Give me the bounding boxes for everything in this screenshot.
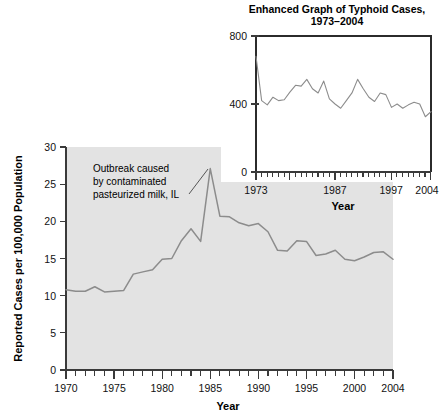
main-y-tick-label-10: 10 [44,290,56,302]
main-x-tick-label-1995: 1995 [295,382,319,394]
main-x-tick-label-2004: 2004 [381,382,405,394]
inset-chart: Enhanced Graph of Typhoid Cases, 1973–20… [221,0,442,212]
inset-x-axis-title: Year [331,200,355,212]
inset-x-tick-label-1997: 1997 [380,184,404,196]
main-x-tick-label-1980: 1980 [151,382,175,394]
annotation-line-3: pasteurized milk, IL [93,189,180,200]
main-y-axis-title: Reported Cases per 100,000 Population [12,155,24,362]
main-y-tick-label-20: 20 [44,215,56,227]
inset-y-tick-label-400: 400 [229,98,247,110]
main-y-tick-label-5: 5 [50,327,56,339]
main-x-tick-label-1975: 1975 [102,382,126,394]
inset-background [221,0,442,182]
inset-y-tick-label-800: 800 [229,30,247,42]
main-x-tick-labels: 1970 1975 1980 1985 1990 1995 2000 2004 [54,382,405,394]
main-y-tick-labels: 0 5 10 15 20 25 30 [44,141,56,376]
main-x-tick-label-1970: 1970 [54,382,78,394]
annotation-line-1: Outbreak caused [93,163,169,174]
chart-canvas: 0 5 10 15 20 25 30 [0,0,442,417]
main-y-tick-label-0: 0 [50,364,56,376]
inset-title-line-1: Enhanced Graph of Typhoid Cases, [249,3,426,15]
main-x-tick-label-1985: 1985 [199,382,223,394]
main-x-ticks [66,370,393,379]
typhoid-cases-figure: 0 5 10 15 20 25 30 [0,0,442,417]
main-y-tick-label-15: 15 [44,253,56,265]
main-y-tick-label-30: 30 [44,141,56,153]
inset-x-tick-label-1987: 1987 [323,184,347,196]
inset-y-tick-label-0: 0 [241,166,247,178]
inset-x-tick-label-2004: 2004 [415,184,439,196]
inset-title-line-2: 1973–2004 [311,15,364,27]
main-y-tick-label-25: 25 [44,178,56,190]
main-x-tick-label-2000: 2000 [343,382,367,394]
main-x-axis-title: Year [216,400,240,412]
annotation-line-2: by contaminated [93,176,166,187]
main-y-ticks [60,147,66,370]
main-x-tick-label-1990: 1990 [247,382,271,394]
inset-x-tick-label-1973: 1973 [244,184,268,196]
